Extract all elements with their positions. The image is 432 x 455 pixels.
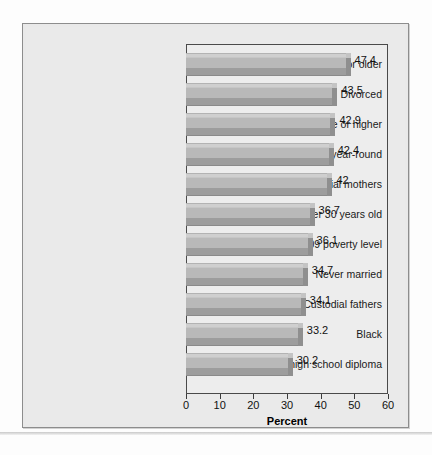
bar-shadow-face (186, 68, 346, 76)
bar (186, 293, 306, 316)
bar-shadow-face (186, 128, 330, 136)
bar (186, 53, 351, 76)
x-axis-tick-label: 60 (382, 399, 394, 411)
bar-front-face (186, 267, 303, 278)
bar-shadow-face (186, 248, 308, 256)
bar-value-label: 36.1 (317, 225, 338, 255)
figure-frame-inner: 40 years or older47.4Divorced43.5Bachelo… (26, 27, 405, 424)
bar-shadow-face (186, 368, 288, 376)
figure-frame: 40 years or older47.4Divorced43.5Bachelo… (22, 23, 409, 428)
bar-shadow-face (186, 218, 310, 226)
bar-row: Custodial fathers34.1 (26, 289, 388, 319)
x-axis-tick-label: 50 (348, 399, 360, 411)
bar-value-label: 34.1 (310, 285, 331, 315)
bar-row: Black33.2 (26, 319, 388, 349)
bar-value-label: 36.7 (319, 195, 340, 225)
bar-row: Divorced43.5 (26, 79, 388, 109)
bar-value-label: 34.7 (312, 255, 333, 285)
bar-end-cap-top (303, 263, 308, 268)
x-axis-tick-label: 40 (315, 399, 327, 411)
bar (186, 203, 315, 226)
bar-value-label: 33.2 (307, 315, 328, 345)
x-axis-tick-label: 10 (214, 399, 226, 411)
bar-shadow-face (186, 98, 332, 106)
x-axis-tick-label: 20 (247, 399, 259, 411)
bar-end-cap-top (330, 113, 335, 118)
bar-front-face (186, 357, 288, 368)
bar-row: Worked full-time, year-round42.4 (26, 139, 388, 169)
bar-front-face (186, 147, 329, 158)
bar-value-label: 43.5 (341, 75, 362, 105)
bar-value-label: 42.9 (339, 105, 360, 135)
bar-shadow-face (186, 308, 301, 316)
x-axis-tick-labels: 0102030405060 (186, 399, 388, 415)
bar (186, 113, 335, 136)
bar-value-label: 42 (336, 165, 348, 195)
bar-front-face (186, 297, 301, 308)
x-axis-tick-label: 30 (281, 399, 293, 411)
bar-front-face (186, 87, 332, 98)
bar-end-cap-top (310, 203, 315, 208)
bar (186, 263, 308, 286)
bar (186, 233, 313, 256)
bar-row: Never married34.7 (26, 259, 388, 289)
bar-shadow-face (186, 338, 298, 346)
bar (186, 353, 293, 376)
bar-end-cap-top (308, 233, 313, 238)
bar-shadow-face (186, 278, 303, 286)
bar (186, 143, 334, 166)
bar-value-label: 47.4 (355, 45, 376, 75)
x-axis-tick-label: 0 (183, 399, 189, 411)
x-axis-title: Percent (186, 415, 388, 427)
bar-end-cap-top (329, 143, 334, 148)
bar-row: Bachelor's degree or higher42.9 (26, 109, 388, 139)
bar (186, 173, 332, 196)
bar-front-face (186, 177, 327, 188)
bar-front-face (186, 327, 298, 338)
bar-end-cap-top (327, 173, 332, 178)
bar-end-cap-top (332, 83, 337, 88)
bar-end-cap-top (346, 53, 351, 58)
bar-value-label: 30.2 (297, 345, 318, 375)
bar-front-face (186, 57, 346, 68)
bar-end-cap-top (298, 323, 303, 328)
bar-shadow-face (186, 188, 327, 196)
bar-row: Below 2009 poverty level36.1 (26, 229, 388, 259)
bar-value-label: 42.4 (338, 135, 359, 165)
bar-front-face (186, 237, 308, 248)
bar-row: Less than high school diploma30.2 (26, 349, 388, 379)
bar-end-cap-top (301, 293, 306, 298)
scanned-page-background: 40 years or older47.4Divorced43.5Bachelo… (0, 0, 432, 455)
bar (186, 83, 337, 106)
bar-front-face (186, 207, 310, 218)
page-edge-shadow (0, 432, 432, 435)
bar-end-cap-top (288, 353, 293, 358)
bar-front-face (186, 117, 330, 128)
bar-shadow-face (186, 158, 329, 166)
bar (186, 323, 303, 346)
bar-row: 40 years or older47.4 (26, 49, 388, 79)
